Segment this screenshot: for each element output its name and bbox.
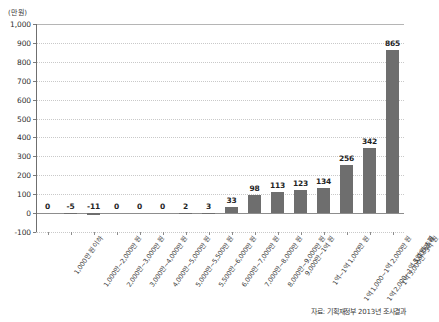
y-tick-label: 700 — [17, 76, 31, 85]
bar-value-label: 134 — [307, 177, 341, 186]
y-tick-label: 1,000 — [10, 20, 31, 29]
source-note: 자료: 기획재정부 2013년 조사결과 — [311, 306, 406, 316]
bar-value-label: 256 — [330, 154, 364, 163]
y-tick-label: 100 — [17, 190, 31, 199]
bar-value-label: 342 — [353, 137, 387, 146]
plot-area: 1,0009008007006005004003002001000-100 0-… — [36, 24, 404, 232]
y-tick-label: 800 — [17, 57, 31, 66]
y-tick-label: 500 — [17, 114, 31, 123]
y-tick-label: 300 — [17, 152, 31, 161]
y-tick-label: 600 — [17, 95, 31, 104]
x-axis-label: 1,000만 원 이하 — [70, 234, 104, 276]
y-axis-unit-label: (만 원) — [8, 7, 27, 17]
y-tick-label: 400 — [17, 133, 31, 142]
bar-value-labels: 0-5-11000233398113123134256342865 — [36, 24, 404, 232]
bar-value-label: 865 — [376, 39, 410, 48]
y-tick-label: 900 — [17, 38, 31, 47]
x-axis-label: 1억~1억 1,000만 원 — [329, 234, 370, 287]
y-tick-label: 200 — [17, 171, 31, 180]
x-axis-labels: 1,000만 원 이하1,000만~2,000만 원2,000만~3,000만 … — [36, 232, 404, 308]
y-tick-label: -100 — [14, 228, 31, 237]
bar-value-label: 33 — [215, 196, 249, 205]
